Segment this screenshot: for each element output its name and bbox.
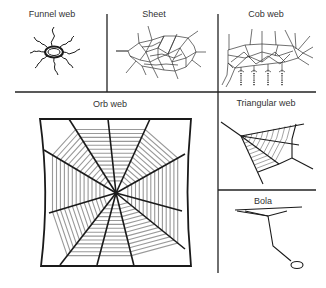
diagram-canvas [0,0,326,288]
orb-hub [114,191,118,195]
spider-web-types-diagram: Funnel web Sheet Cob web Orb web Triangu… [0,0,326,288]
label-sheet-web: Sheet [142,9,166,19]
cob-web-illustration [222,29,313,87]
label-bola: Bola [254,196,272,206]
bola-sticky-globule [291,262,303,269]
sheet-web-illustration [116,26,206,79]
bola-illustration [235,207,303,269]
label-triangular-web: Triangular web [236,98,295,108]
funnel-web-illustration [30,27,80,75]
label-cob-web: Cob web [248,9,284,19]
triangular-web-illustration [221,122,313,184]
label-orb-web: Orb web [93,99,127,109]
orb-web-illustration [40,119,191,266]
label-funnel-web: Funnel web [29,9,76,19]
